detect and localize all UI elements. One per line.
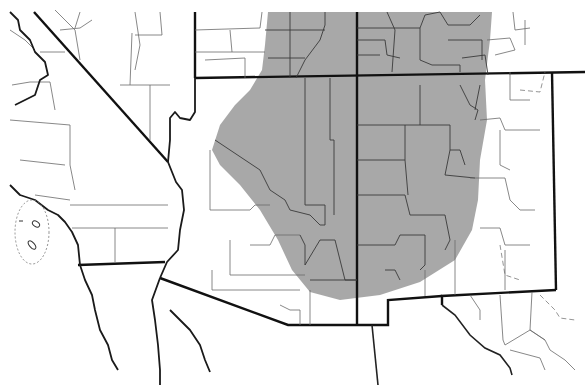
new-mexico-bootheel (357, 296, 442, 325)
range-map (0, 0, 585, 385)
map-canvas (0, 0, 585, 385)
new-mexico-east-border (552, 72, 556, 290)
islands-dotted-outline (15, 200, 49, 264)
california-mexico-border (78, 262, 165, 265)
colorado-river-border (160, 78, 195, 278)
channel-islands (15, 200, 49, 264)
range-shaded-area (212, 12, 492, 300)
nevada-california-border (34, 12, 168, 162)
new-mexico-south-border (442, 290, 556, 305)
new-mexico-chihuahua-line (372, 325, 378, 385)
